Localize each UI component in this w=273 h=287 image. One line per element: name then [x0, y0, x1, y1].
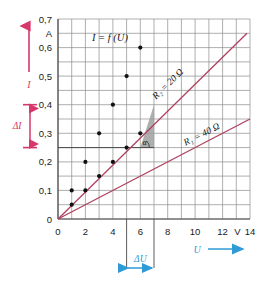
x-tick-0: 0	[55, 226, 60, 237]
y-tick-0.1: 0,1	[39, 185, 52, 196]
y-tick-0: 0	[47, 214, 52, 225]
y-tick-0.3: 0,3	[39, 128, 52, 139]
i-axis-accent: I	[26, 26, 31, 90]
y-tick-0.6: 0,6	[39, 42, 52, 53]
x-tick-12: 12	[217, 226, 228, 237]
delta-u-annotation: ΔU	[128, 254, 152, 268]
u-axis-label: U	[193, 244, 201, 255]
i-axis-label: I	[26, 79, 31, 90]
y-tick-0.7: 0,7	[39, 14, 52, 25]
formula-annotation: I = f (U)	[91, 32, 128, 44]
y-tick-labels: 0,7 0,6 0,5 0,4 0,3 0,2 0,1 0	[39, 14, 52, 225]
x-tick-labels: 0 2 4 6 8 10 12 14	[55, 226, 255, 237]
delta-i-label: ΔI	[12, 121, 23, 131]
delta-i-annotation: ΔI	[12, 105, 37, 148]
x-tick-4: 4	[110, 226, 115, 237]
delta-u-label: ΔU	[133, 254, 148, 264]
y-tick-0.5: 0,5	[39, 71, 52, 82]
data-markers-r1	[70, 131, 143, 207]
y-tick-0.2: 0,2	[39, 156, 52, 167]
x-tick-8: 8	[165, 226, 170, 237]
iv-characteristic-chart: α 0,7 0,6 0,5 0,4 0,3 0,2 0,1 0 A 0 2 4 …	[0, 0, 273, 287]
y-unit-label: A	[46, 28, 53, 39]
x-tick-6: 6	[138, 226, 143, 237]
x-tick-14: 14	[245, 226, 256, 237]
x-unit-label: V	[234, 226, 241, 237]
x-tick-10: 10	[190, 226, 201, 237]
u-axis-accent: U	[193, 244, 243, 255]
x-tick-2: 2	[83, 226, 88, 237]
y-tick-0.4: 0,4	[39, 99, 52, 110]
